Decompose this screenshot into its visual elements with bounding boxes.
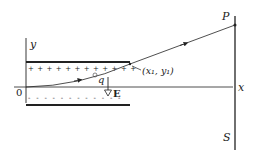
screen-point-label: P [221,10,230,23]
straight-arrow [180,43,186,45]
exit-point-label: (x₁, y₁) [142,65,174,76]
screen-label: S [223,131,231,144]
field-label: E [113,88,121,99]
upper-plate-charges: + + + + + + + + + + + + [28,65,137,73]
impact-point [234,24,237,27]
deflection-diagram: y x 0 + + + + + + + + + + + + - - - - - … [0,0,255,153]
y-axis-label: y [29,38,37,51]
origin-label: 0 [16,87,22,98]
x-axis-label: x [238,81,245,94]
charge-label: q [98,74,104,85]
exit-point [129,63,131,65]
